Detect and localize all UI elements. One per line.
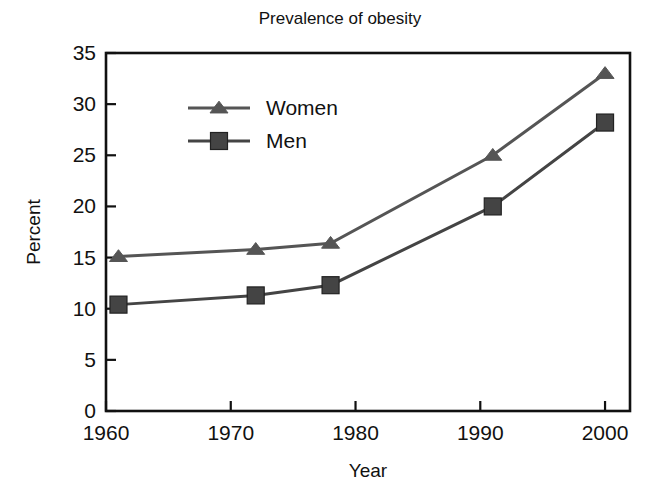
plot-frame <box>106 53 630 411</box>
series-men <box>110 114 614 313</box>
x-tick-label: 1970 <box>207 421 254 444</box>
square-marker <box>322 277 339 294</box>
y-tick-label: 30 <box>73 92 96 115</box>
y-tick-label: 25 <box>73 143 96 166</box>
x-axis: 19601970198019902000 <box>83 401 629 444</box>
square-marker <box>484 198 501 215</box>
square-marker <box>247 287 264 304</box>
chart-legend: WomenMen <box>188 96 338 152</box>
chart-container: Prevalence of obesity 05101520253035 196… <box>0 0 667 486</box>
series-women <box>109 67 614 262</box>
series-line <box>118 73 605 256</box>
x-tick-label: 1990 <box>457 421 504 444</box>
series-line <box>118 123 605 305</box>
y-tick-label: 5 <box>84 348 96 371</box>
legend-label: Women <box>266 96 338 119</box>
y-axis-title: Percent <box>23 199 44 265</box>
y-tick-label: 35 <box>73 41 96 64</box>
square-marker <box>110 296 127 313</box>
x-tick-label: 2000 <box>582 421 629 444</box>
y-tick-label: 10 <box>73 297 96 320</box>
x-tick-label: 1960 <box>83 421 130 444</box>
chart-title: Prevalence of obesity <box>259 9 422 28</box>
y-tick-label: 15 <box>73 246 96 269</box>
legend-item-women: Women <box>188 96 338 119</box>
square-marker <box>597 114 614 131</box>
triangle-marker <box>596 67 614 79</box>
data-series-group <box>109 67 614 313</box>
y-tick-label: 20 <box>73 194 96 217</box>
y-tick-label: 0 <box>84 399 96 422</box>
legend-item-men: Men <box>188 129 307 152</box>
square-marker <box>211 133 228 150</box>
y-axis: 05101520253035 <box>73 41 116 422</box>
line-chart: Prevalence of obesity 05101520253035 196… <box>0 0 667 486</box>
x-tick-label: 1980 <box>332 421 379 444</box>
legend-label: Men <box>266 129 307 152</box>
x-axis-title: Year <box>349 460 388 481</box>
